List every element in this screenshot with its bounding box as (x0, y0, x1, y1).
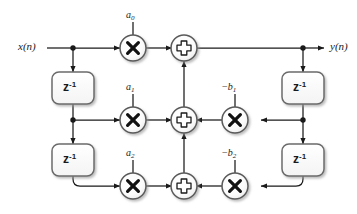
coefficient-b1-sub: 1 (233, 86, 237, 94)
delay-exponent-output-1: -1 (299, 80, 306, 89)
coefficient-label-b1: −b1 (222, 82, 236, 94)
delay-label-output-1: z-1 (293, 81, 306, 93)
coefficient-label-a2: a2 (126, 148, 135, 160)
coefficient-b2-sub: 2 (233, 152, 237, 160)
signal-flow-diagram: x(n) y(n) a0 a1 a2 −b1 −b2 z-1 z-1 z-1 z… (0, 0, 357, 214)
coefficient-a1-sub: 1 (131, 86, 135, 94)
delay-exponent-input-1: -1 (69, 80, 76, 89)
coefficient-a2-sub: 2 (131, 152, 135, 160)
coefficient-a0-sub: 0 (131, 14, 135, 22)
delay-exponent-output-2: -1 (299, 152, 306, 161)
coefficient-label-b2: −b2 (222, 148, 236, 160)
junction-dot-output-delay (300, 117, 305, 122)
flow-graph-canvas (0, 0, 357, 214)
output-signal-label: y(n) (330, 41, 348, 52)
delay-exponent-input-2: -1 (69, 152, 76, 161)
junction-dot-input-delay (70, 117, 75, 122)
delay-label-input-2: z-1 (63, 153, 76, 165)
wire-delay4-to-mul-b2 (261, 176, 303, 186)
delay-label-input-1: z-1 (63, 81, 76, 93)
input-signal-label: x(n) (18, 41, 36, 52)
coefficient-label-a1: a1 (126, 82, 135, 94)
junction-dot-input (70, 45, 75, 50)
wire-delay2-to-mul-a2 (73, 176, 120, 186)
junction-dot-output (300, 45, 305, 50)
coefficient-label-a0: a0 (126, 10, 135, 22)
delay-label-output-2: z-1 (293, 153, 306, 165)
